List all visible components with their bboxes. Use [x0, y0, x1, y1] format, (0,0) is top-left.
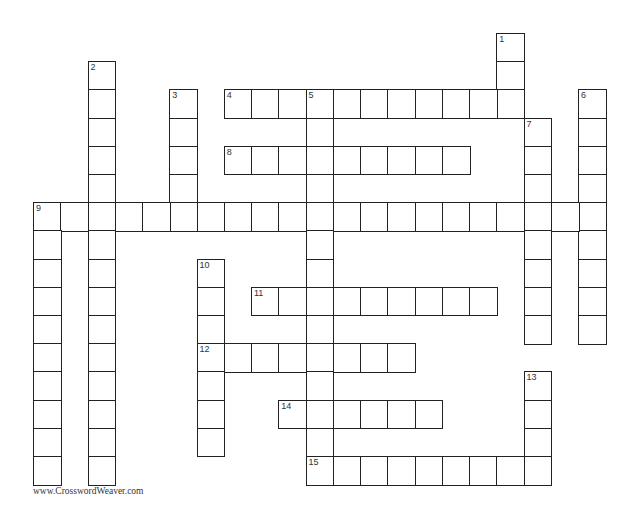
crossword-cell[interactable]: 2	[88, 61, 117, 91]
crossword-cell[interactable]	[578, 259, 607, 289]
crossword-cell[interactable]	[469, 202, 498, 232]
crossword-cell[interactable]	[387, 400, 416, 430]
crossword-cell[interactable]: 14	[278, 400, 307, 430]
crossword-cell[interactable]	[578, 146, 607, 176]
crossword-cell[interactable]	[442, 287, 471, 317]
crossword-cell[interactable]	[88, 400, 117, 430]
crossword-cell[interactable]	[360, 287, 389, 317]
crossword-cell[interactable]	[496, 202, 525, 232]
crossword-cell[interactable]	[88, 315, 117, 345]
crossword-cell[interactable]	[88, 118, 117, 148]
crossword-cell[interactable]	[197, 315, 226, 345]
crossword-cell[interactable]	[496, 456, 525, 486]
crossword-cell[interactable]: 4	[224, 89, 253, 119]
crossword-cell[interactable]	[306, 428, 335, 458]
crossword-cell[interactable]	[33, 230, 62, 260]
crossword-cell[interactable]	[333, 146, 362, 176]
crossword-cell[interactable]	[88, 230, 117, 260]
crossword-cell[interactable]	[306, 230, 335, 260]
crossword-cell[interactable]	[33, 456, 62, 486]
crossword-cell[interactable]	[442, 146, 471, 176]
crossword-cell[interactable]	[278, 287, 307, 317]
crossword-cell[interactable]: 10	[197, 259, 226, 289]
crossword-cell[interactable]	[33, 343, 62, 373]
crossword-cell[interactable]	[169, 174, 198, 204]
crossword-cell[interactable]	[197, 400, 226, 430]
crossword-cell[interactable]	[251, 146, 280, 176]
crossword-cell[interactable]	[88, 456, 117, 486]
crossword-cell[interactable]: 6	[578, 89, 607, 119]
crossword-cell[interactable]	[278, 202, 307, 232]
crossword-cell[interactable]	[88, 343, 117, 373]
crossword-cell[interactable]	[578, 230, 607, 260]
crossword-cell[interactable]	[88, 259, 117, 289]
crossword-cell[interactable]	[333, 89, 362, 119]
crossword-cell[interactable]	[115, 202, 144, 232]
crossword-cell[interactable]	[333, 343, 362, 373]
crossword-cell[interactable]	[387, 146, 416, 176]
crossword-cell[interactable]	[33, 315, 62, 345]
crossword-cell[interactable]: 12	[197, 343, 226, 373]
crossword-cell[interactable]	[306, 259, 335, 289]
crossword-cell[interactable]	[524, 202, 553, 232]
crossword-cell[interactable]	[197, 428, 226, 458]
crossword-cell[interactable]	[306, 202, 335, 232]
crossword-cell[interactable]	[387, 287, 416, 317]
crossword-cell[interactable]	[251, 343, 280, 373]
crossword-cell[interactable]	[224, 343, 253, 373]
crossword-cell[interactable]	[278, 146, 307, 176]
crossword-cell[interactable]	[197, 287, 226, 317]
crossword-cell[interactable]	[169, 146, 198, 176]
crossword-cell[interactable]	[469, 89, 498, 119]
crossword-cell[interactable]	[415, 400, 444, 430]
crossword-cell[interactable]	[306, 118, 335, 148]
crossword-cell[interactable]	[442, 456, 471, 486]
crossword-cell[interactable]	[524, 259, 553, 289]
crossword-cell[interactable]	[88, 146, 117, 176]
crossword-cell[interactable]	[88, 287, 117, 317]
crossword-cell[interactable]	[578, 202, 607, 232]
crossword-cell[interactable]	[197, 202, 226, 232]
crossword-cell[interactable]	[306, 400, 335, 430]
crossword-cell[interactable]	[88, 202, 117, 232]
crossword-cell[interactable]	[251, 202, 280, 232]
crossword-cell[interactable]	[33, 371, 62, 401]
crossword-cell[interactable]	[306, 343, 335, 373]
crossword-cell[interactable]	[33, 428, 62, 458]
crossword-cell[interactable]	[524, 400, 553, 430]
crossword-cell[interactable]	[360, 343, 389, 373]
crossword-cell[interactable]: 1	[496, 33, 525, 63]
crossword-cell[interactable]	[306, 315, 335, 345]
crossword-cell[interactable]	[496, 89, 525, 119]
crossword-cell[interactable]: 9	[33, 202, 62, 232]
crossword-cell[interactable]	[469, 287, 498, 317]
crossword-cell[interactable]	[60, 202, 89, 232]
crossword-cell[interactable]	[524, 428, 553, 458]
crossword-cell[interactable]	[306, 371, 335, 401]
crossword-cell[interactable]	[496, 61, 525, 91]
crossword-cell[interactable]	[387, 343, 416, 373]
crossword-cell[interactable]	[306, 287, 335, 317]
crossword-cell[interactable]	[306, 146, 335, 176]
crossword-cell[interactable]	[415, 287, 444, 317]
crossword-cell[interactable]	[88, 371, 117, 401]
crossword-cell[interactable]	[415, 456, 444, 486]
crossword-cell[interactable]	[88, 89, 117, 119]
crossword-cell[interactable]	[333, 202, 362, 232]
crossword-cell[interactable]	[360, 146, 389, 176]
crossword-cell[interactable]	[360, 89, 389, 119]
crossword-cell[interactable]	[387, 456, 416, 486]
crossword-cell[interactable]	[387, 89, 416, 119]
crossword-cell[interactable]: 13	[524, 371, 553, 401]
crossword-cell[interactable]	[169, 118, 198, 148]
crossword-cell[interactable]	[33, 287, 62, 317]
crossword-cell[interactable]	[524, 230, 553, 260]
crossword-cell[interactable]	[333, 287, 362, 317]
crossword-cell[interactable]: 15	[306, 456, 335, 486]
crossword-cell[interactable]: 3	[169, 89, 198, 119]
crossword-cell[interactable]	[33, 400, 62, 430]
crossword-cell[interactable]	[524, 146, 553, 176]
crossword-cell[interactable]	[524, 174, 553, 204]
crossword-cell[interactable]	[360, 202, 389, 232]
crossword-cell[interactable]: 8	[224, 146, 253, 176]
